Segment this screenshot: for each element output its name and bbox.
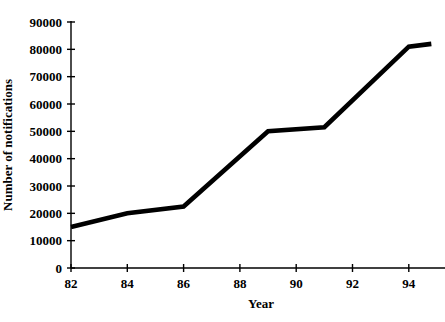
x-tick-label: 90 (290, 276, 303, 291)
x-tick-label: 86 (177, 276, 191, 291)
x-tick-label: 94 (402, 276, 416, 291)
x-axis-title: Year (248, 296, 274, 311)
y-tick-label: 10000 (30, 233, 63, 248)
y-tick-label: 50000 (30, 124, 63, 139)
y-tick-label: 70000 (30, 69, 63, 84)
y-tick-label: 20000 (30, 206, 63, 221)
y-tick-label: 40000 (30, 151, 63, 166)
y-axis-title: Number of notifications (0, 79, 15, 211)
y-tick-label: 30000 (30, 179, 63, 194)
chart-container: 0100002000030000400005000060000700008000… (0, 0, 445, 322)
line-chart: 0100002000030000400005000060000700008000… (0, 0, 445, 322)
x-axis-tick-labels: 82848688909294 (65, 276, 416, 291)
x-tick-label: 92 (346, 276, 359, 291)
y-tick-label: 0 (56, 261, 63, 276)
y-axis-tick-labels: 0100002000030000400005000060000700008000… (30, 15, 63, 276)
x-tick-label: 84 (121, 276, 135, 291)
y-tick-label: 60000 (30, 97, 63, 112)
x-tick-label: 82 (65, 276, 78, 291)
y-tick-label: 80000 (30, 42, 63, 57)
x-tick-label: 88 (233, 276, 247, 291)
data-series-line (71, 44, 431, 227)
y-tick-label: 90000 (30, 15, 63, 30)
